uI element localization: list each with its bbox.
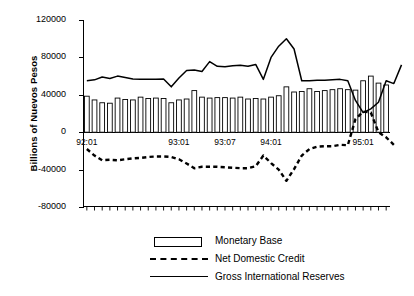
legend-item-net-domestic-credit: Net Domestic Credit	[150, 250, 400, 268]
bar-monetary-base	[123, 99, 128, 132]
bar-monetary-base	[131, 100, 136, 132]
bar-monetary-base	[84, 96, 89, 132]
bar-monetary-base	[207, 98, 212, 132]
bar-monetary-base	[238, 97, 243, 132]
bar-monetary-base	[292, 92, 297, 132]
y-axis-tick-label: 40000	[18, 90, 66, 99]
plot-area	[83, 20, 390, 207]
bar-monetary-base	[368, 76, 373, 132]
bar-monetary-base	[100, 103, 105, 132]
x-axis-tick-label: 93:01	[168, 138, 189, 147]
x-axis-tick-label: 94:01	[260, 138, 281, 147]
bar-monetary-base	[107, 103, 112, 132]
x-axis-tick-label: 95:01	[352, 138, 373, 147]
x-axis-tick-label: 93:07	[214, 138, 235, 147]
legend-key-solid-line-icon	[150, 271, 208, 283]
y-axis-tick-mark	[79, 132, 84, 133]
bar-monetary-base	[315, 92, 320, 133]
y-axis-tick-labels: 12000080000400000-40000-80000	[18, 0, 66, 296]
bar-monetary-base	[376, 83, 381, 132]
legend-label: Gross International Reserves	[215, 271, 345, 283]
bar-monetary-base	[200, 97, 205, 132]
legend-label: Monetary Base	[215, 235, 282, 247]
y-axis-tick-mark	[79, 170, 84, 171]
bar-monetary-base	[223, 98, 228, 133]
bar-monetary-base	[330, 90, 335, 133]
bar-monetary-base	[215, 98, 220, 133]
y-axis-tick-mark	[79, 20, 84, 21]
bar-monetary-base	[269, 97, 274, 132]
bar-monetary-base	[299, 92, 304, 133]
bar-monetary-base	[307, 89, 312, 132]
bar-monetary-base	[177, 100, 182, 132]
bar-monetary-base	[246, 99, 251, 132]
y-axis-tick-label: 120000	[18, 15, 66, 24]
y-axis-tick-label: -80000	[18, 202, 66, 211]
legend-key-dashed-line-icon	[150, 253, 208, 265]
legend-item-monetary-base: Monetary Base	[150, 232, 400, 250]
y-axis-tick-label: 0	[18, 127, 66, 136]
bar-monetary-base	[253, 99, 258, 133]
bar-monetary-base	[192, 91, 197, 133]
bar-monetary-base	[261, 99, 266, 132]
y-axis-tick-mark	[79, 207, 84, 208]
bar-monetary-base	[230, 98, 235, 132]
legend-label: Net Domestic Credit	[215, 253, 304, 265]
bar-monetary-base	[184, 99, 189, 132]
y-axis-tick-mark	[79, 57, 84, 58]
y-axis-tick-mark	[79, 95, 84, 96]
bar-monetary-base	[322, 91, 327, 133]
x-axis-tick-label: 92:01	[76, 138, 97, 147]
bar-monetary-base	[345, 90, 350, 133]
bar-monetary-base	[284, 87, 289, 132]
x-axis-tick-labels: 92:0193:0193:0794:0195:01	[83, 138, 390, 152]
chart-legend: Monetary Base Net Domestic Credit Gross …	[150, 232, 400, 286]
bar-monetary-base	[154, 98, 159, 132]
bar-monetary-base	[138, 97, 143, 132]
bar-monetary-base	[146, 99, 151, 133]
bar-monetary-base	[115, 98, 120, 132]
bar-monetary-base	[361, 81, 366, 132]
bar-monetary-base	[161, 99, 166, 133]
y-axis-tick-label: 80000	[18, 52, 66, 61]
plot-canvas	[83, 20, 391, 207]
bar-monetary-base	[276, 96, 281, 132]
bar-monetary-base	[384, 85, 389, 132]
legend-item-gross-international-reserves: Gross International Reserves	[150, 268, 400, 286]
bar-monetary-base	[169, 103, 174, 132]
bar-monetary-base	[338, 89, 343, 132]
y-axis-tick-label: -40000	[18, 165, 66, 174]
chart-figure: Billions of Nuevos Pesos 120000800004000…	[0, 0, 414, 296]
bar-monetary-base	[92, 100, 97, 132]
legend-key-bar-icon	[150, 235, 208, 247]
